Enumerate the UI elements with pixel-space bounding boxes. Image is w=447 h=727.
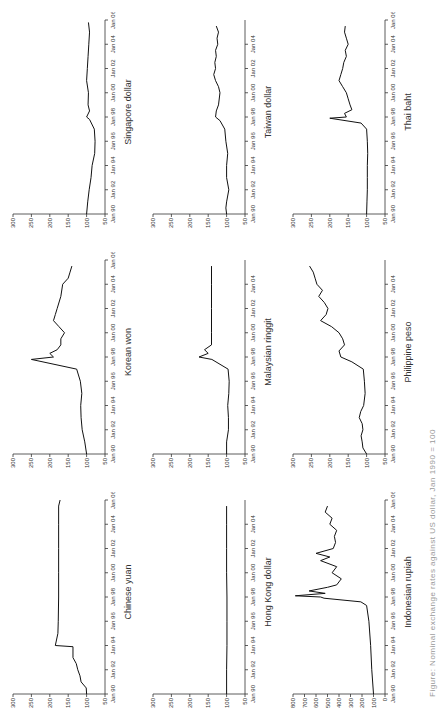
svg-text:800: 800 bbox=[290, 697, 296, 708]
svg-text:Jan 02: Jan 02 bbox=[110, 539, 116, 558]
svg-text:200: 200 bbox=[359, 697, 365, 708]
chart-title: Thai baht bbox=[403, 12, 413, 212]
svg-text:Jan 02: Jan 02 bbox=[390, 539, 396, 558]
svg-text:50: 50 bbox=[102, 217, 108, 224]
svg-text:Jan 98: Jan 98 bbox=[110, 347, 116, 366]
svg-text:Jan 06: Jan 06 bbox=[390, 492, 396, 509]
svg-text:100: 100 bbox=[224, 217, 230, 228]
svg-text:200: 200 bbox=[47, 457, 53, 468]
svg-text:Jan 04: Jan 04 bbox=[250, 515, 256, 534]
svg-text:300: 300 bbox=[150, 217, 156, 228]
svg-text:Jan 92: Jan 92 bbox=[390, 660, 396, 679]
chart-title: Malaysian ringgit bbox=[263, 252, 273, 452]
svg-text:150: 150 bbox=[345, 217, 351, 228]
svg-text:Jan 92: Jan 92 bbox=[390, 180, 396, 199]
svg-text:250: 250 bbox=[28, 697, 34, 708]
chart-panel-thai-baht: 50100150200250300Jan 90Jan 92Jan 94Jan 9… bbox=[285, 12, 415, 242]
chart-panel-singapore-dollar: 50100150200250300Jan 90Jan 92Jan 94Jan 9… bbox=[5, 12, 135, 242]
svg-text:Jan 94: Jan 94 bbox=[110, 396, 116, 415]
svg-text:50: 50 bbox=[242, 697, 248, 704]
svg-text:300: 300 bbox=[348, 697, 354, 708]
chart-title: Hong Kong dollar bbox=[263, 492, 273, 692]
svg-text:Jan 94: Jan 94 bbox=[390, 156, 396, 175]
svg-text:Jan 90: Jan 90 bbox=[250, 444, 256, 463]
svg-text:150: 150 bbox=[65, 697, 71, 708]
svg-text:Jan 90: Jan 90 bbox=[390, 684, 396, 703]
chart-title: Korean won bbox=[123, 252, 133, 452]
series-line bbox=[295, 506, 373, 694]
svg-text:Jan 98: Jan 98 bbox=[110, 107, 116, 126]
svg-text:Jan 96: Jan 96 bbox=[110, 612, 116, 631]
series-line bbox=[330, 26, 368, 214]
svg-text:Jan 96: Jan 96 bbox=[390, 132, 396, 151]
svg-text:150: 150 bbox=[205, 457, 211, 468]
svg-text:Jan 96: Jan 96 bbox=[250, 132, 256, 151]
svg-text:200: 200 bbox=[327, 217, 333, 228]
svg-text:50: 50 bbox=[242, 217, 248, 224]
svg-text:100: 100 bbox=[224, 457, 230, 468]
svg-text:250: 250 bbox=[168, 217, 174, 228]
svg-text:Jan 98: Jan 98 bbox=[390, 587, 396, 606]
svg-text:Jan 02: Jan 02 bbox=[250, 59, 256, 78]
svg-text:300: 300 bbox=[10, 217, 16, 228]
chart-panel-hong-kong-dollar: 50100150200250300Jan 90Jan 92Jan 94Jan 9… bbox=[145, 492, 275, 722]
svg-text:Jan 02: Jan 02 bbox=[250, 539, 256, 558]
svg-text:Jan 06: Jan 06 bbox=[110, 492, 116, 509]
svg-text:Jan 90: Jan 90 bbox=[390, 444, 396, 463]
svg-text:Jan 00: Jan 00 bbox=[110, 83, 116, 102]
svg-text:100: 100 bbox=[364, 217, 370, 228]
svg-text:Jan 94: Jan 94 bbox=[390, 396, 396, 415]
series-line bbox=[55, 500, 86, 694]
svg-text:Jan 90: Jan 90 bbox=[390, 204, 396, 223]
figure: 50100150200250300Jan 90Jan 92Jan 94Jan 9… bbox=[0, 0, 447, 727]
svg-text:Jan 04: Jan 04 bbox=[110, 275, 116, 294]
svg-text:200: 200 bbox=[187, 697, 193, 708]
svg-text:100: 100 bbox=[224, 697, 230, 708]
svg-text:200: 200 bbox=[47, 697, 53, 708]
svg-text:250: 250 bbox=[28, 457, 34, 468]
svg-text:Jan 90: Jan 90 bbox=[250, 684, 256, 703]
svg-text:50: 50 bbox=[102, 457, 108, 464]
svg-text:200: 200 bbox=[187, 217, 193, 228]
svg-text:Jan 92: Jan 92 bbox=[390, 420, 396, 439]
series-line bbox=[87, 22, 95, 214]
svg-text:50: 50 bbox=[102, 697, 108, 704]
svg-text:Jan 04: Jan 04 bbox=[390, 275, 396, 294]
svg-text:50: 50 bbox=[382, 217, 388, 224]
chart-panel-taiwan-dollar: 50100150200250300Jan 90Jan 92Jan 94Jan 9… bbox=[145, 12, 275, 242]
svg-text:150: 150 bbox=[205, 697, 211, 708]
svg-text:Jan 92: Jan 92 bbox=[110, 180, 116, 199]
svg-text:Jan 96: Jan 96 bbox=[390, 372, 396, 391]
svg-text:Jan 04: Jan 04 bbox=[110, 35, 116, 54]
chart-panel-korean-won: 50100150200250300Jan 90Jan 92Jan 94Jan 9… bbox=[5, 252, 135, 482]
svg-text:250: 250 bbox=[168, 697, 174, 708]
svg-text:Jan 98: Jan 98 bbox=[390, 107, 396, 126]
svg-text:400: 400 bbox=[336, 697, 342, 708]
svg-text:Jan 92: Jan 92 bbox=[250, 180, 256, 199]
svg-text:300: 300 bbox=[10, 697, 16, 708]
chart-title: Indonesian rupiah bbox=[403, 492, 413, 692]
svg-text:Jan 04: Jan 04 bbox=[390, 515, 396, 534]
svg-text:250: 250 bbox=[308, 457, 314, 468]
svg-text:200: 200 bbox=[47, 217, 53, 228]
svg-text:Jan 96: Jan 96 bbox=[110, 132, 116, 151]
svg-text:Jan 00: Jan 00 bbox=[110, 563, 116, 582]
chart-panel-indonesian-rupiah: 0100200300400500600700800Jan 90Jan 92Jan… bbox=[285, 492, 415, 722]
svg-text:Jan 00: Jan 00 bbox=[390, 83, 396, 102]
svg-text:Jan 04: Jan 04 bbox=[250, 35, 256, 54]
svg-text:Jan 92: Jan 92 bbox=[110, 420, 116, 439]
svg-text:200: 200 bbox=[327, 457, 333, 468]
series-line bbox=[310, 266, 367, 454]
svg-text:Jan 98: Jan 98 bbox=[110, 587, 116, 606]
svg-text:150: 150 bbox=[345, 457, 351, 468]
chart-title: Singapore dollar bbox=[123, 12, 133, 212]
svg-text:Jan 00: Jan 00 bbox=[110, 323, 116, 342]
svg-text:600: 600 bbox=[313, 697, 319, 708]
chart-title: Taiwan dollar bbox=[263, 12, 273, 212]
svg-text:Jan 02: Jan 02 bbox=[250, 299, 256, 318]
svg-text:Jan 96: Jan 96 bbox=[250, 372, 256, 391]
svg-text:100: 100 bbox=[364, 457, 370, 468]
svg-text:Jan 96: Jan 96 bbox=[390, 612, 396, 631]
svg-text:Jan 90: Jan 90 bbox=[110, 204, 116, 223]
figure-caption: Figure: Nominal exchange rates against U… bbox=[428, 429, 437, 697]
